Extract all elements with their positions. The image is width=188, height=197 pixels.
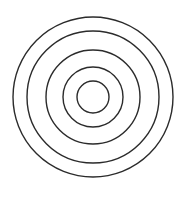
circle-ring-3 (46, 50, 140, 144)
concentric-circles-diagram (0, 0, 188, 197)
circle-ring-5 (77, 81, 109, 113)
circle-ring-2 (27, 31, 159, 163)
circle-ring-4 (63, 67, 123, 127)
circle-ring-1 (13, 17, 173, 177)
